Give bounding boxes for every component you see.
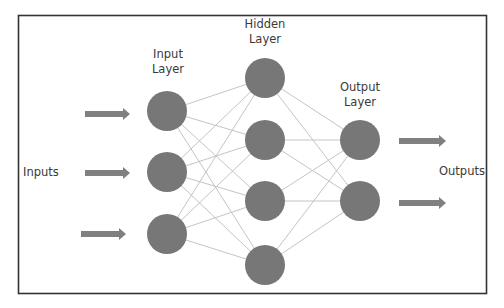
output-node (340, 181, 380, 221)
outputs-label: Outputs (439, 164, 485, 179)
hidden-node (245, 120, 285, 160)
input-node (147, 152, 187, 192)
hidden-layer-label: Hidden Layer (242, 17, 288, 47)
input-layer-label: Input Layer (147, 47, 189, 77)
hidden-node (245, 245, 285, 285)
output-node (340, 120, 380, 160)
output-layer-label: Output Layer (335, 80, 385, 110)
hidden-node (245, 181, 285, 221)
input-node (147, 91, 187, 131)
hidden-node (245, 58, 285, 98)
inputs-label: Inputs (23, 165, 59, 180)
input-node (147, 214, 187, 254)
